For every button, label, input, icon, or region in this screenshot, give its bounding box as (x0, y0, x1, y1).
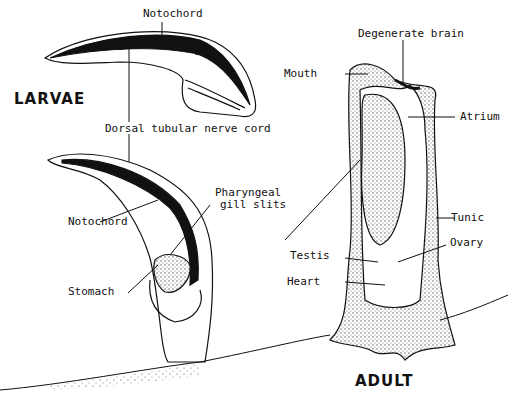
label-tunic: Tunic (451, 212, 484, 224)
label-degenerate-brain: Degenerate brain (358, 28, 464, 40)
label-notochord-top: Notochord (143, 8, 203, 20)
label-testis: Testis (290, 250, 330, 262)
label-notochord-mid: Notochord (68, 216, 128, 228)
larva-bottom (48, 154, 213, 362)
label-pharyngeal-gill-slits-2: gill slits (220, 199, 286, 211)
label-ovary: Ovary (450, 237, 483, 249)
adult-heading: ADULT (355, 372, 414, 390)
larvae-heading: LARVAE (14, 90, 85, 108)
label-mouth: Mouth (284, 68, 317, 80)
label-dorsal-nerve-cord: Dorsal tubular nerve cord (105, 123, 271, 135)
label-atrium: Atrium (460, 111, 500, 123)
label-heart: Heart (287, 276, 320, 288)
adult-tunicate (330, 64, 455, 360)
label-stomach: Stomach (68, 286, 114, 298)
